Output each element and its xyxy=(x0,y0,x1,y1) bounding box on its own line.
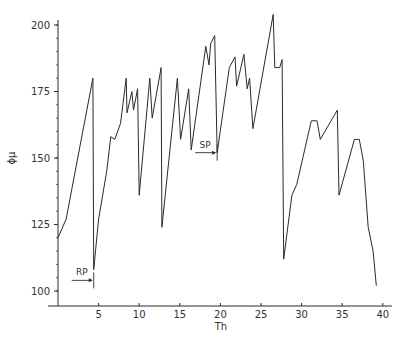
y-tick-label: 150 xyxy=(31,153,50,164)
y-tick-label: 175 xyxy=(31,86,50,97)
chart: 100125150175200 510152025303540 RPSP Th … xyxy=(0,0,406,340)
annotation-rp: RP xyxy=(72,267,94,288)
y-tick-label: 125 xyxy=(31,219,50,230)
y-tick-label: 100 xyxy=(31,286,50,297)
x-tick-label: 10 xyxy=(133,309,146,320)
annotation-arrow-head xyxy=(89,278,93,282)
x-tick-label: 35 xyxy=(336,309,349,320)
x-tick-label: 15 xyxy=(173,309,186,320)
x-tick-label: 25 xyxy=(255,309,268,320)
y-axis: 100125150175200 xyxy=(31,20,58,307)
x-axis: 510152025303540 xyxy=(48,303,392,320)
y-axis-label: ϕμ xyxy=(6,151,17,165)
x-axis-label: Th xyxy=(214,321,227,332)
annotation-arrow-head xyxy=(212,151,216,155)
y-tick-label: 200 xyxy=(31,20,50,31)
annotation-label: RP xyxy=(76,267,88,277)
x-tick-label: 40 xyxy=(376,309,389,320)
x-tick-label: 30 xyxy=(295,309,308,320)
annotation-sp: SP xyxy=(195,140,217,161)
annotation-label: SP xyxy=(200,140,212,150)
x-tick-label: 5 xyxy=(95,309,101,320)
x-tick-label: 20 xyxy=(214,309,227,320)
